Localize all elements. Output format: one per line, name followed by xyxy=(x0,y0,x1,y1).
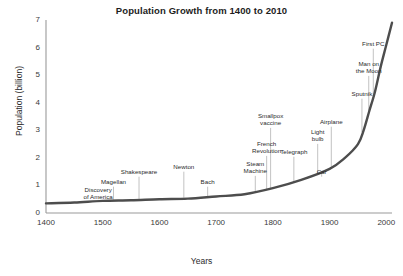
population-curve xyxy=(46,23,392,204)
x-tick-1500: 1500 xyxy=(83,218,123,227)
annotation-label: Smallpox vaccine xyxy=(241,112,301,126)
annotation-label: Newton xyxy=(154,163,214,170)
annotation-label: Discovery of America xyxy=(68,186,128,200)
annotation-label: Man on the Moon xyxy=(339,60,399,74)
annotation-label: Light bulb xyxy=(288,128,348,142)
annotation-label: Magellan xyxy=(83,178,143,185)
annotation-label: Sputnik xyxy=(332,90,392,97)
annotation-label: First PC xyxy=(343,40,403,47)
annotation-label: Telegraph xyxy=(264,148,324,155)
y-tick-4: 4 xyxy=(20,98,40,107)
annotation-label: Airplane xyxy=(301,118,361,125)
y-tick-3: 3 xyxy=(20,125,40,134)
annotation-label: Car xyxy=(292,168,352,175)
y-tick-2: 2 xyxy=(20,153,40,162)
annotation-label: Steam Machine xyxy=(225,160,285,174)
y-tick-5: 5 xyxy=(20,70,40,79)
y-tick-7: 7 xyxy=(20,15,40,24)
x-tick-1700: 1700 xyxy=(196,218,236,227)
x-tick-1600: 1600 xyxy=(139,218,179,227)
x-tick-2000: 2000 xyxy=(366,218,403,227)
population-growth-chart: Population Growth from 1400 to 2010 Popu… xyxy=(0,0,403,276)
y-tick-6: 6 xyxy=(20,43,40,52)
x-tick-1900: 1900 xyxy=(310,218,350,227)
y-tick-0: 0 xyxy=(20,208,40,217)
x-tick-1400: 1400 xyxy=(26,218,66,227)
x-tick-1800: 1800 xyxy=(253,218,293,227)
y-tick-1: 1 xyxy=(20,180,40,189)
annotation-label: Bach xyxy=(178,178,238,185)
